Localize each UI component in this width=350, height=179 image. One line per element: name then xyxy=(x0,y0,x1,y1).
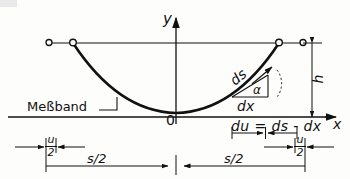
angle-label: α xyxy=(253,84,261,96)
half-span-right-label: s/2 xyxy=(224,152,243,165)
support-marker-right-inner xyxy=(276,39,283,46)
messband-leader-line xyxy=(99,97,117,110)
x-axis-label: x xyxy=(333,117,341,131)
span-dimension-line xyxy=(46,155,305,175)
u-half-left-denominator: 2 xyxy=(45,147,57,158)
y-axis-label: y xyxy=(163,12,172,27)
u-half-right-numerator: u xyxy=(294,134,306,145)
half-span-left-label: s/2 xyxy=(87,152,106,165)
u-half-right-fraction: u 2 xyxy=(294,134,306,158)
messband-label: Meßband xyxy=(27,100,87,113)
u-half-left-numerator: u xyxy=(45,134,57,145)
support-marker-left-inner xyxy=(70,39,77,46)
support-marker-left-outer xyxy=(46,40,52,46)
u-half-left-fraction: u 2 xyxy=(45,134,57,158)
u-half-right-denominator: 2 xyxy=(294,147,306,158)
figure-canvas: y x 0 Meßband h ds dx α du = ds - dx s/2… xyxy=(0,0,350,179)
angle-arc-dashed xyxy=(277,70,282,97)
sag-height-label: h xyxy=(311,75,325,84)
dx-label: dx xyxy=(237,99,254,113)
du-equation-label: du = ds - dx xyxy=(231,119,322,133)
origin-label: 0 xyxy=(166,113,175,127)
